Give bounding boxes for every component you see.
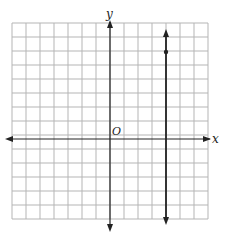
y-axis-label: y <box>105 7 113 21</box>
arrow-up-icon <box>107 20 113 28</box>
coordinate-plane: y x O <box>0 0 225 237</box>
arrow-right-icon <box>203 136 211 142</box>
point-marker <box>164 50 168 54</box>
arrow-down-icon <box>163 217 169 225</box>
origin-label: O <box>112 125 121 138</box>
arrow-up-icon <box>163 29 169 37</box>
arrow-left-icon <box>5 136 13 142</box>
graphed-line-x-4 <box>163 29 169 225</box>
x-axis-label: x <box>212 132 219 146</box>
arrow-down-icon <box>107 224 113 232</box>
